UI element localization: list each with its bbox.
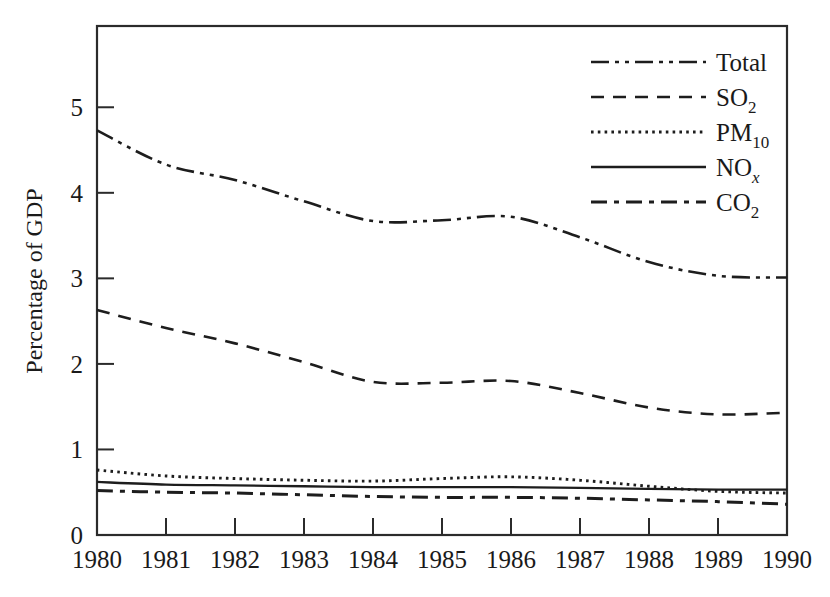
chart-figure: 012345 198019811982198319841985198619871… — [0, 0, 830, 597]
line-chart: 012345 198019811982198319841985198619871… — [0, 0, 830, 597]
x-tick-label-1990: 1990 — [762, 546, 812, 573]
y-tick-label-1: 1 — [71, 436, 84, 463]
x-tick-label-1988: 1988 — [624, 546, 674, 573]
chart-background — [0, 0, 830, 597]
y-tick-label-5: 5 — [71, 94, 84, 121]
y-tick-label-4: 4 — [71, 180, 84, 207]
x-tick-label-1983: 1983 — [279, 546, 329, 573]
x-tick-label-1986: 1986 — [486, 546, 536, 573]
y-tick-label-0: 0 — [71, 522, 84, 549]
x-tick-label-1985: 1985 — [417, 546, 467, 573]
y-tick-label-2: 2 — [71, 351, 84, 378]
y-axis-title: Percentage of GDP — [21, 188, 47, 373]
x-tick-label-1987: 1987 — [555, 546, 605, 573]
x-tick-label-1982: 1982 — [210, 546, 260, 573]
x-tick-label-1980: 1980 — [72, 546, 122, 573]
x-axis-tick-labels: 1980198119821983198419851986198719881989… — [72, 546, 812, 573]
x-tick-label-1981: 1981 — [141, 546, 191, 573]
x-tick-label-1984: 1984 — [348, 546, 399, 573]
y-tick-label-3: 3 — [71, 265, 84, 292]
legend-label-total: Total — [716, 49, 767, 76]
x-tick-label-1989: 1989 — [693, 546, 743, 573]
